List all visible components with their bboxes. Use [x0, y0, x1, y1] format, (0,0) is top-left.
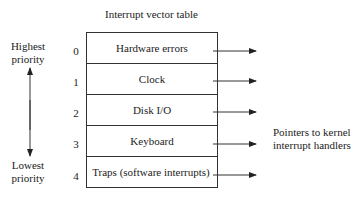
arrows-layer: [0, 0, 359, 199]
interrupt-vector-diagram: Interrupt vector table Highest priority …: [0, 0, 359, 199]
